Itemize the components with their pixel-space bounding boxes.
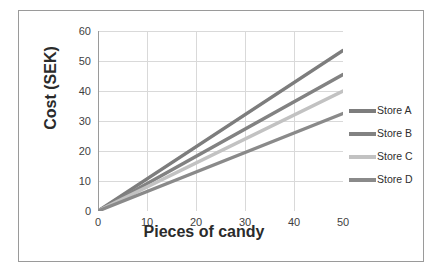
legend-label-store-c: Store C (377, 151, 413, 162)
y-tick-label-50: 50 (65, 56, 91, 67)
legend-item-store-a[interactable]: Store A (349, 99, 425, 122)
plot-svg (98, 31, 343, 211)
x-tick-label-0: 0 (85, 217, 111, 228)
y-tick-label-60: 60 (65, 26, 91, 37)
chart-legend: Store A Store B Store C Store D (349, 99, 425, 191)
legend-swatch-store-a (349, 109, 376, 113)
legend-item-store-c[interactable]: Store C (349, 145, 425, 168)
legend-label-store-d: Store D (377, 174, 413, 185)
legend-label-store-a: Store A (377, 105, 411, 116)
y-tick-label-10: 10 (65, 176, 91, 187)
x-tick-label-40: 40 (281, 217, 307, 228)
y-tick-label-40: 40 (65, 86, 91, 97)
x-tick-label-50: 50 (330, 217, 356, 228)
y-tick-label-20: 20 (65, 146, 91, 157)
plot-area (98, 31, 343, 211)
x-tick-label-20: 20 (183, 217, 209, 228)
legend-item-store-b[interactable]: Store B (349, 122, 425, 145)
legend-label-store-b: Store B (377, 128, 412, 139)
legend-item-store-d[interactable]: Store D (349, 168, 425, 191)
legend-swatch-store-c (349, 155, 376, 159)
chart-figure-frame: Cost (SEK) Pieces of candy 60 50 40 30 2… (18, 10, 424, 262)
x-tick-label-10: 10 (134, 217, 160, 228)
data-series-group (98, 51, 343, 212)
y-tick-label-0: 0 (65, 206, 91, 217)
horizontal-gridlines (98, 31, 343, 181)
legend-swatch-store-d (349, 178, 376, 182)
y-tick-label-30: 30 (65, 116, 91, 127)
x-tick-label-30: 30 (232, 217, 258, 228)
y-axis-title: Cost (SEK) (42, 18, 64, 158)
legend-swatch-store-b (349, 132, 376, 136)
